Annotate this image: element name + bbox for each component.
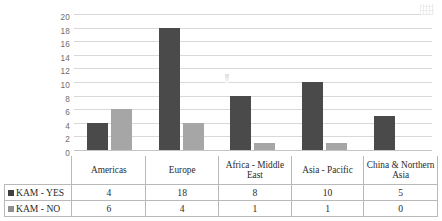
bar-kam-yes[interactable]: [374, 116, 395, 150]
y-axis-tick-labels: 20181614121086420: [48, 10, 70, 154]
legend-item-kam-no[interactable]: KAM - NO: [5, 201, 72, 217]
table-cell-value: 4: [72, 185, 146, 201]
table-cell-value: 18: [146, 185, 219, 201]
table-row: KAM - YES 4188105: [5, 185, 438, 201]
y-tick-8: 8: [65, 96, 70, 104]
chart-data-table: AmericasEuropeAfrica - Middle EastAsia -…: [4, 156, 438, 217]
table-cell-value: 0: [364, 201, 438, 217]
bar-kam-no[interactable]: [183, 123, 204, 150]
y-tick-14: 14: [60, 55, 70, 63]
legend-swatch-icon: [8, 206, 14, 212]
bar-group-americas: [74, 14, 146, 150]
table-cell-value: 5: [364, 185, 438, 201]
plot-area: 20181614121086420: [0, 0, 442, 158]
bar-kam-yes[interactable]: [230, 96, 251, 150]
bar-kam-yes[interactable]: [159, 28, 180, 150]
legend-label: KAM - NO: [16, 203, 60, 214]
chart-figure: 20181614121086420 AmericasEuropeAfrica -…: [0, 0, 442, 221]
table-header-cell: Americas: [72, 156, 146, 185]
table-cell-value: 10: [291, 185, 364, 201]
table-header-cell: Europe: [146, 156, 219, 185]
bar-kam-yes[interactable]: [87, 123, 108, 150]
bar-group-europe: [146, 14, 218, 150]
gridline-0: [74, 150, 432, 151]
table-row: KAM - NO 64110: [5, 201, 438, 217]
y-tick-16: 16: [60, 41, 70, 49]
y-tick-4: 4: [65, 123, 70, 131]
table-cell-value: 8: [219, 185, 292, 201]
table-cell-value: 4: [146, 201, 219, 217]
legend-item-kam-yes[interactable]: KAM - YES: [5, 185, 72, 201]
table-header-row: AmericasEuropeAfrica - Middle EastAsia -…: [5, 156, 438, 185]
bar-group-africa-middle-east: [217, 14, 289, 150]
bar-group-asia-pacific: [289, 14, 361, 150]
y-tick-2: 2: [65, 136, 70, 144]
y-tick-10: 10: [60, 82, 70, 90]
y-tick-20: 20: [60, 14, 70, 22]
bar-group-china-northern-asia: [360, 14, 432, 150]
grid-and-bars: [74, 14, 432, 150]
table-corner-cell: [5, 156, 72, 185]
table-header-cell: China & Northern Asia: [364, 156, 438, 185]
legend-swatch-icon: [8, 190, 14, 196]
bar-kam-no[interactable]: [254, 143, 275, 150]
table-cell-value: 1: [219, 201, 292, 217]
y-tick-18: 18: [60, 28, 70, 36]
bar-kam-yes[interactable]: [302, 82, 323, 150]
table-cell-value: 6: [72, 201, 146, 217]
y-tick-6: 6: [65, 109, 70, 117]
bar-series-container: [74, 14, 432, 150]
legend-label: KAM - YES: [16, 187, 64, 198]
bar-kam-no[interactable]: [111, 109, 132, 150]
table-header-cell: Asia - Pacific: [291, 156, 364, 185]
table-cell-value: 1: [291, 201, 364, 217]
data-table: AmericasEuropeAfrica - Middle EastAsia -…: [4, 156, 438, 214]
bar-kam-no[interactable]: [326, 143, 347, 150]
y-tick-12: 12: [60, 68, 70, 76]
table-header-cell: Africa - Middle East: [219, 156, 292, 185]
